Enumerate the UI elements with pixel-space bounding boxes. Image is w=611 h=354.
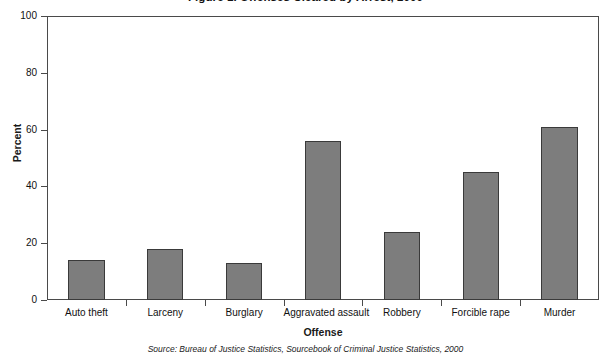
y-tick-mark (41, 300, 47, 301)
x-tick-mark (441, 300, 442, 306)
bar-auto-theft (68, 260, 104, 300)
bar-forcible-rape (463, 172, 499, 300)
bar-aggravated-assault (305, 141, 341, 300)
chart-title: Figure 1. Offenses Cleared by Arrest, 20… (0, 0, 611, 3)
y-tick-label: 80 (0, 68, 37, 78)
bar-larceny (147, 249, 183, 300)
x-tick-mark (520, 300, 521, 306)
y-tick-mark (41, 130, 47, 131)
x-tick-label: Burglary (205, 307, 284, 318)
bar-robbery (384, 232, 420, 300)
y-axis-title: Percent (11, 113, 23, 173)
source-note: Source: Bureau of Justice Statistics, So… (0, 344, 611, 354)
y-tick-label: 60 (0, 125, 37, 135)
y-tick-mark (41, 243, 47, 244)
x-tick-label: Robbery (362, 307, 441, 318)
bars-container (47, 16, 599, 300)
y-tick-label: 100 (0, 11, 37, 21)
y-tick-mark (41, 73, 47, 74)
x-tick-mark (362, 300, 363, 306)
y-tick-mark (41, 16, 47, 17)
x-tick-label: Forcible rape (441, 307, 520, 318)
y-tick-mark (41, 186, 47, 187)
bar-murder (541, 127, 577, 300)
x-tick-mark (205, 300, 206, 306)
bar-chart-figure: Figure 1. Offenses Cleared by Arrest, 20… (0, 0, 611, 354)
x-tick-label: Larceny (126, 307, 205, 318)
bar-burglary (226, 263, 262, 300)
x-tick-mark (126, 300, 127, 306)
x-axis-title: Offense (47, 326, 599, 338)
x-tick-label: Auto theft (47, 307, 126, 318)
y-tick-label: 20 (0, 238, 37, 248)
x-tick-label: Aggravated assault (284, 307, 363, 318)
x-tick-label: Murder (520, 307, 599, 318)
x-tick-mark (284, 300, 285, 306)
y-tick-label: 40 (0, 181, 37, 191)
y-tick-label: 0 (0, 295, 37, 305)
